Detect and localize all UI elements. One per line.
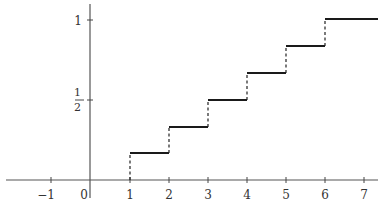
y-tick-label-one: 1 (74, 14, 82, 28)
y-tick-label-half-denominator: 2 (74, 101, 81, 114)
x-tick-label: 3 (204, 188, 212, 202)
x-tick-label: 6 (321, 188, 329, 202)
x-tick-label: 4 (243, 188, 251, 202)
x-tick-label: −1 (37, 188, 55, 202)
x-tick-label: 7 (360, 188, 368, 202)
x-tick-label: 1 (126, 188, 134, 202)
x-tick-label: 0 (80, 188, 88, 202)
y-tick-label-half-numerator: 1 (74, 86, 81, 99)
x-tick-label: 2 (165, 188, 173, 202)
x-tick-label: 5 (282, 188, 290, 202)
step-function-chart: −1 0 1 2 3 4 5 6 7 1 1 2 (0, 0, 382, 208)
step-series (130, 19, 378, 153)
